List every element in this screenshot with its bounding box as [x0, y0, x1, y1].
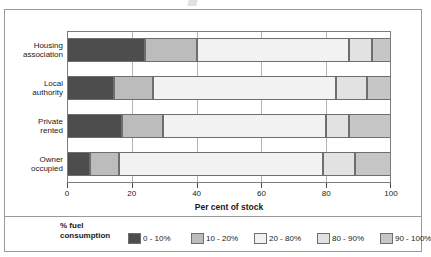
- legend-swatch-icon: [128, 233, 141, 244]
- legend-item[interactable]: 0 - 10%: [128, 233, 171, 244]
- legend-swatch-icon: [317, 233, 330, 244]
- x-tick-60: [261, 183, 262, 188]
- legend-item[interactable]: 80 - 90%: [317, 233, 364, 244]
- legend-title-line: consumption: [60, 231, 120, 241]
- bar-segment: [367, 76, 391, 100]
- x-tick-20: [132, 183, 133, 188]
- plot-area: [67, 31, 391, 183]
- bar-segment: [336, 76, 367, 100]
- x-tick-label-100: 100: [384, 189, 397, 198]
- category-label-line: Local: [0, 79, 63, 89]
- x-tick-label-80: 80: [322, 189, 331, 198]
- legend-label: 0 - 10%: [143, 234, 171, 243]
- legend-item[interactable]: 20 - 80%: [254, 233, 301, 244]
- x-tick-40: [197, 183, 198, 188]
- bar-segment: [197, 38, 349, 62]
- bar-segment: [122, 114, 163, 138]
- x-axis-ticks: 020406080100: [67, 183, 391, 188]
- bar-segment: [67, 152, 90, 176]
- legend-swatch-icon: [254, 233, 267, 244]
- legend-label: 90 - 100%: [395, 234, 431, 243]
- legend-title-line: % fuel: [60, 221, 120, 231]
- category-label-line: rented: [0, 126, 63, 136]
- bar-segment: [355, 152, 391, 176]
- bar-segment: [323, 152, 355, 176]
- bar-segment: [90, 152, 119, 176]
- bar-segment: [326, 114, 349, 138]
- category-label: Owneroccupied: [0, 155, 63, 174]
- bar-segment: [145, 38, 197, 62]
- category-label: Privaterented: [0, 117, 63, 136]
- bar-segment: [119, 152, 323, 176]
- bar-segment: [67, 38, 145, 62]
- bar-row: [67, 114, 391, 138]
- x-tick-100: [390, 183, 391, 188]
- category-label-line: association: [0, 50, 63, 60]
- legend-item[interactable]: 90 - 100%: [380, 233, 431, 244]
- bar-segment: [67, 114, 122, 138]
- category-label-line: Private: [0, 117, 63, 127]
- scan-artifact: [187, 0, 197, 6]
- legend: % fuelconsumption 0 - 10%10 - 20%20 - 80…: [4, 216, 422, 252]
- x-tick-label-0: 0: [65, 189, 69, 198]
- legend-label: 10 - 20%: [206, 234, 238, 243]
- x-tick-0: [67, 183, 68, 188]
- legend-title: % fuelconsumption: [60, 221, 120, 240]
- category-label-line: occupied: [0, 164, 63, 174]
- legend-swatch-icon: [191, 233, 204, 244]
- bar-segment: [349, 38, 372, 62]
- bar-segment: [349, 114, 391, 138]
- bar-segment: [67, 76, 114, 100]
- category-label: Localauthority: [0, 79, 63, 98]
- x-tick-label-40: 40: [192, 189, 201, 198]
- x-tick-80: [326, 183, 327, 188]
- x-tick-label-20: 20: [127, 189, 136, 198]
- legend-item[interactable]: 10 - 20%: [191, 233, 238, 244]
- legend-swatch-icon: [380, 233, 393, 244]
- category-label: Housingassociation: [0, 41, 63, 60]
- bar-segment: [114, 76, 153, 100]
- bar-segment: [163, 114, 327, 138]
- bar-segment: [372, 38, 391, 62]
- legend-label: 20 - 80%: [269, 234, 301, 243]
- bar-row: [67, 76, 391, 100]
- bar-row: [67, 152, 391, 176]
- x-axis-title: Per cent of stock: [67, 202, 391, 212]
- bar-row: [67, 38, 391, 62]
- category-label-line: Housing: [0, 41, 63, 51]
- category-label-line: authority: [0, 88, 63, 98]
- bar-segment: [153, 76, 336, 100]
- category-label-line: Owner: [0, 155, 63, 165]
- x-tick-label-60: 60: [257, 189, 266, 198]
- legend-label: 80 - 90%: [332, 234, 364, 243]
